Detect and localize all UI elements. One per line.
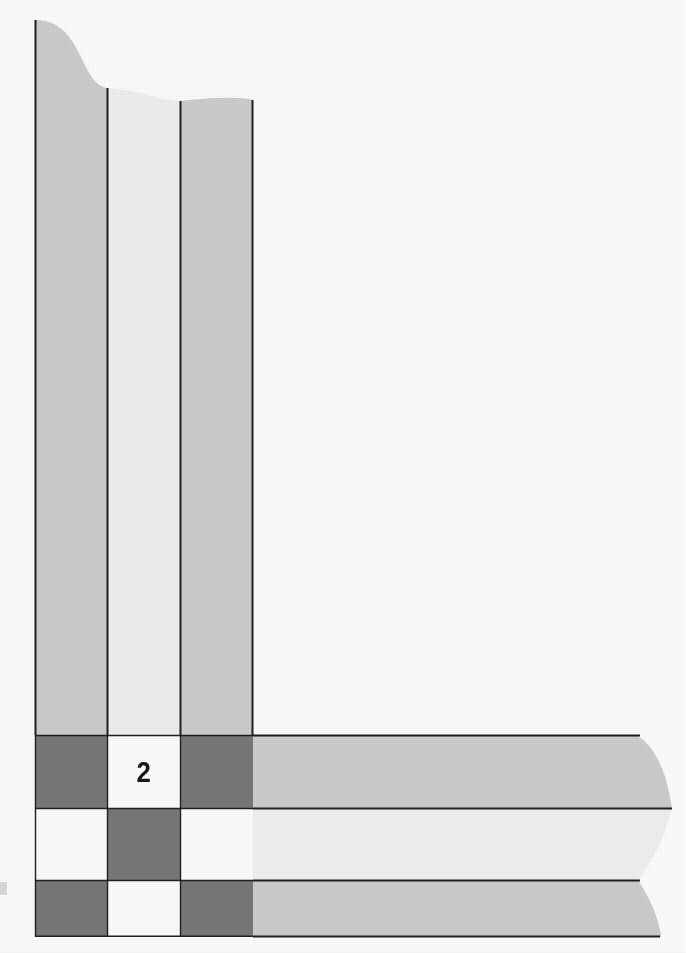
figure-canvas: 2	[0, 0, 686, 953]
grid-cell-r3c2	[107, 880, 180, 937]
grid-cell-r2c1	[35, 808, 107, 880]
grid-cell-r1c1	[35, 735, 107, 808]
horizontal-bands-group	[253, 735, 672, 937]
halftone-texture	[0, 0, 686, 953]
scan-speck-icon	[0, 882, 7, 895]
vertical-bars-group	[35, 20, 253, 735]
grid-cell-r2c2	[107, 808, 180, 880]
grid-cell-r3c3	[180, 880, 253, 937]
grid-cell-value-2: 2	[112, 735, 175, 808]
vertical-bar-1	[35, 20, 107, 735]
figure-shapes-layer	[0, 0, 686, 953]
grid-cell-r3c1	[35, 880, 107, 937]
grid-cell-r1c3	[180, 735, 253, 808]
horizontal-band-2	[253, 808, 672, 880]
vertical-bar-2	[107, 88, 180, 735]
grid-cell-r2c3	[180, 808, 253, 880]
horizontal-band-1	[253, 735, 672, 808]
horizontal-band-3	[253, 880, 661, 937]
vertical-bar-3	[180, 98, 253, 735]
figure-svg	[0, 0, 686, 953]
